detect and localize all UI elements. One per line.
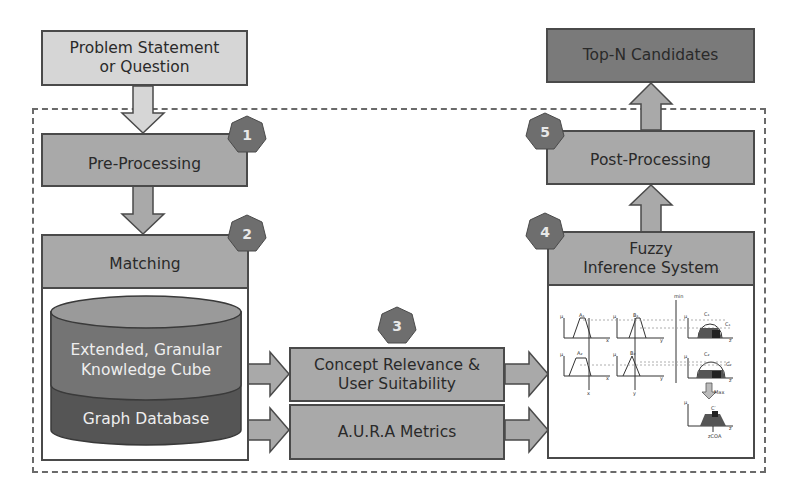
topn-candidates-node: Top-N Candidates — [546, 28, 755, 83]
step-badge-2: 2 — [227, 214, 267, 254]
svg-text:y: y — [660, 337, 663, 344]
svg-text:μ: μ — [684, 313, 688, 320]
svg-text:z: z — [729, 425, 732, 431]
postprocessing-node: Post-Processing — [546, 130, 755, 185]
step-number: 5 — [525, 112, 565, 152]
svg-text:C′: C′ — [711, 405, 716, 411]
svg-text:μ: μ — [613, 313, 617, 320]
step-badge-1: 1 — [227, 115, 267, 155]
svg-text:z: z — [729, 377, 732, 383]
svg-text:A₂: A₂ — [577, 350, 582, 356]
svg-text:C₂: C₂ — [726, 361, 732, 367]
step-number: 2 — [227, 214, 267, 254]
svg-text:C₁: C₁ — [704, 311, 710, 317]
svg-text:x: x — [587, 390, 590, 396]
svg-text:μ: μ — [613, 351, 617, 358]
svg-text:y: y — [633, 390, 636, 397]
topn-candidates-label: Top-N Candidates — [583, 46, 719, 65]
step-badge-5: 5 — [525, 112, 565, 152]
svg-text:A₁: A₁ — [579, 312, 584, 318]
step-number: 3 — [377, 306, 417, 346]
svg-text:zCOA: zCOA — [708, 433, 722, 439]
step-number: 4 — [525, 212, 565, 252]
postprocessing-label: Post-Processing — [590, 151, 711, 170]
svg-text:C₁: C₁ — [725, 321, 731, 327]
svg-text:μ: μ — [684, 399, 688, 406]
step-badge-4: 4 — [525, 212, 565, 252]
step-number: 1 — [227, 115, 267, 155]
svg-text:x: x — [606, 337, 609, 343]
svg-text:μ: μ — [560, 351, 564, 358]
svg-text:y: y — [660, 375, 663, 382]
svg-text:μ: μ — [560, 313, 564, 320]
svg-text:x: x — [606, 375, 609, 381]
svg-text:μ: μ — [684, 353, 688, 360]
svg-text:C₂: C₂ — [704, 351, 710, 357]
svg-text:z: z — [729, 337, 732, 343]
svg-text:B₁: B₁ — [633, 312, 638, 318]
svg-text:min: min — [674, 293, 683, 299]
step-badge-3: 3 — [377, 306, 417, 346]
svg-text:B₂: B₂ — [630, 350, 635, 356]
svg-text:Max: Max — [714, 389, 724, 395]
